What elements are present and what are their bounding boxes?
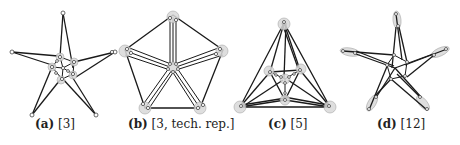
caption-b-label: (b) <box>128 117 148 131</box>
caption-d: (d) [12] <box>377 117 425 131</box>
caption-a: (a) [3] <box>35 117 75 131</box>
caption-d-label: (d) <box>377 117 397 131</box>
caption-a-label: (a) <box>35 117 54 131</box>
subfigure-d-graph <box>339 11 450 113</box>
caption-a-ref: [3] <box>58 117 75 131</box>
subfigure-b-graph <box>110 11 228 114</box>
caption-c-label: (c) <box>268 117 287 131</box>
caption-b-ref: [3, tech. rep.] <box>152 117 235 131</box>
caption-c: (c) [5] <box>268 117 308 131</box>
caption-d-ref: [12] <box>401 117 426 131</box>
subfigure-a-graph <box>10 11 117 117</box>
caption-c-ref: [5] <box>291 117 308 131</box>
subfigure-c-graph <box>234 18 336 113</box>
caption-b: (b) [3, tech. rep.] <box>128 117 235 131</box>
